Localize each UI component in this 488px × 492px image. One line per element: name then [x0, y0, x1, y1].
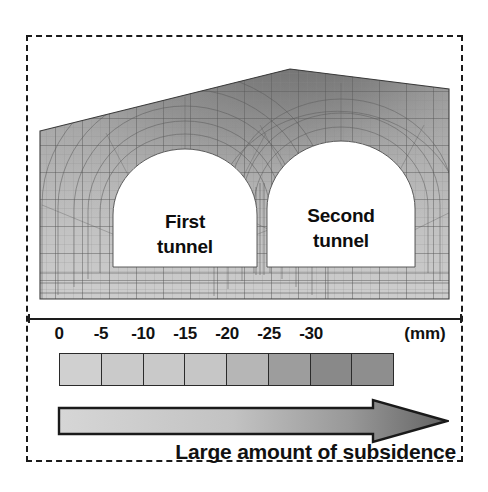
colorbar-swatch-1 [102, 354, 144, 385]
subsidence-colorbar [59, 353, 394, 386]
colorbar-tick-3: -15 [173, 324, 197, 344]
colorbar-tick-2: -10 [131, 324, 155, 344]
panel-divider [28, 317, 462, 320]
colorbar-swatch-7 [352, 354, 393, 385]
colorbar-tick-1: -5 [94, 324, 109, 344]
arrow-icon [57, 398, 449, 444]
colorbar-swatch-3 [185, 354, 227, 385]
colorbar-tick-5: -25 [257, 324, 281, 344]
figure-root: First tunnel Second tunnel 0 -5 -10 -15 … [0, 0, 488, 492]
colorbar-swatch-6 [311, 354, 353, 385]
fem-mesh-panel: First tunnel Second tunnel [28, 37, 461, 312]
subsidence-caption: Large amount of subsidence [28, 440, 462, 464]
legend-area: 0 -5 -10 -15 -20 -25 -30 (mm) [28, 322, 462, 460]
colorbar-tick-4: -20 [215, 324, 239, 344]
second-tunnel-label: Second tunnel [267, 203, 415, 253]
second-tunnel-label-line2: tunnel [267, 228, 415, 253]
subsidence-direction-arrow [57, 398, 449, 444]
second-tunnel-label-line1: Second [307, 205, 374, 226]
fem-mesh-graphic [28, 37, 461, 312]
colorbar-tick-0: 0 [54, 324, 63, 344]
colorbar-tick-6: -30 [299, 324, 323, 344]
colorbar-swatch-5 [269, 354, 311, 385]
first-tunnel-label-line2: tunnel [113, 234, 257, 259]
colorbar-swatch-0 [60, 354, 102, 385]
colorbar-unit-label: (mm) [404, 324, 446, 344]
colorbar-swatch-2 [144, 354, 186, 385]
divider-rule [28, 318, 462, 320]
first-tunnel-label: First tunnel [113, 209, 257, 259]
first-tunnel-label-line1: First [165, 211, 205, 232]
colorbar-tick-labels: 0 -5 -10 -15 -20 -25 -30 (mm) [28, 324, 462, 348]
colorbar-swatch-4 [227, 354, 269, 385]
